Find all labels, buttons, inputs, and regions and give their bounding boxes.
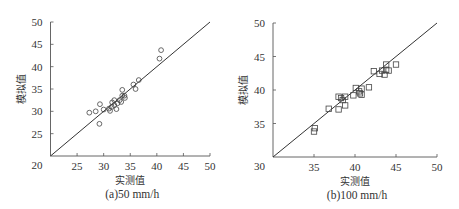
- reference-line-y-equals-x: [51, 22, 211, 156]
- y-tick-label: 30: [32, 105, 44, 117]
- reference-line-y-equals-x: [273, 23, 437, 157]
- data-point-square: [393, 62, 398, 67]
- x-tick-label: 40: [151, 160, 163, 172]
- x-tick-label: 45: [391, 161, 403, 173]
- y-axis-label: 模拟值: [15, 74, 27, 104]
- data-point-circle: [159, 48, 164, 53]
- x-tick-label: 40: [350, 161, 362, 173]
- x-tick-label: 50: [432, 161, 444, 173]
- x-axis-label: 实测值: [115, 174, 145, 186]
- x-tick-label: 50: [205, 160, 217, 172]
- y-tick-label: 40: [254, 84, 266, 96]
- data-point-circle: [120, 87, 125, 92]
- y-tick-label: 45: [254, 51, 266, 63]
- x-axis-label: 实测值: [340, 175, 370, 187]
- y-tick-label: 35: [32, 83, 44, 95]
- x-tick-label: 45: [178, 160, 190, 172]
- y-axis-label: 模拟值: [237, 75, 249, 105]
- data-point-circle: [98, 102, 103, 107]
- chart-a-50mmh: 20253035404550253035404550实测值模拟值(a)50 mm…: [15, 16, 217, 201]
- x-tick-label: 25: [72, 160, 84, 172]
- data-point-circle: [87, 110, 92, 115]
- data-point-square: [342, 103, 347, 108]
- chart-caption: (b)100 mm/h: [327, 189, 388, 202]
- data-points: [311, 62, 398, 134]
- data-point-circle: [97, 121, 102, 126]
- y-tick-label: 45: [32, 38, 44, 50]
- y-tick-label: 35: [254, 118, 266, 130]
- data-points: [87, 48, 164, 127]
- data-point-square: [366, 85, 371, 90]
- data-point-square: [326, 106, 331, 111]
- data-point-circle: [157, 56, 162, 61]
- chart-b-100mmh: 303540455035404550实测值模拟值(b)100 mm/h: [237, 17, 443, 202]
- y-tick-label: 25: [32, 128, 44, 140]
- data-point-circle: [133, 87, 138, 92]
- x-tick-label: 35: [309, 161, 321, 173]
- x-tick-label: 35: [125, 160, 137, 172]
- figure-canvas: 20253035404550253035404550实测值模拟值(a)50 mm…: [0, 0, 459, 209]
- data-point-circle: [114, 107, 119, 112]
- data-point-circle: [93, 109, 98, 114]
- y-tick-label: 30: [254, 160, 266, 172]
- y-tick-label: 40: [32, 61, 44, 73]
- y-tick-label: 50: [254, 17, 266, 29]
- y-tick-label: 20: [32, 159, 44, 171]
- data-point-square: [336, 107, 341, 112]
- x-tick-label: 30: [98, 160, 110, 172]
- chart-caption: (a)50 mm/h: [105, 188, 159, 201]
- y-tick-label: 50: [32, 16, 44, 28]
